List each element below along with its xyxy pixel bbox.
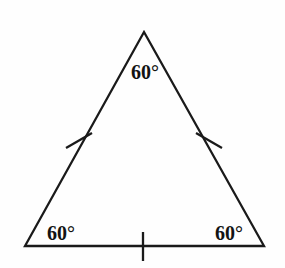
apex-angle-label: 60°: [131, 61, 159, 83]
triangle-figure: 60° 60° 60°: [0, 0, 285, 268]
bottom-left-angle-label: 60°: [47, 222, 75, 244]
triangle-svg: 60° 60° 60°: [0, 0, 285, 268]
bottom-right-angle-label: 60°: [215, 222, 243, 244]
left-side-tick-mark: [66, 133, 92, 148]
